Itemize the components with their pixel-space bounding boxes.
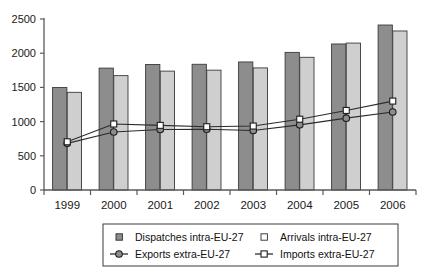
line-marker-square	[204, 124, 210, 130]
x-axis-category-label: 2002	[194, 199, 220, 211]
y-axis-tick-label: 2500	[12, 13, 36, 25]
line-marker-square	[157, 122, 163, 128]
legend-entry-label: Imports extra-EU-27	[280, 248, 375, 260]
line-marker-square	[390, 98, 396, 104]
line-marker-circle	[389, 109, 396, 116]
chart-legend: Dispatches intra-EU-27Arrivals intra-EU-…	[103, 224, 398, 266]
line-marker-square	[64, 139, 70, 145]
y-axis-tick-label: 1000	[12, 116, 36, 128]
legend-swatch-dispatches	[116, 234, 122, 240]
grouped-bar-line-chart: 05001000150020002500 1999200020012002200…	[0, 0, 436, 272]
legend-swatch-arrivals	[261, 234, 267, 240]
x-axis-category-label: 2000	[101, 199, 127, 211]
legend-entry-label: Exports extra-EU-27	[135, 248, 230, 260]
x-axis-category-label: 2004	[287, 199, 313, 211]
legend-marker-square-imports	[261, 251, 267, 257]
chart-container: 05001000150020002500 1999200020012002200…	[0, 0, 436, 272]
x-axis-category-label: 2003	[240, 199, 266, 211]
legend-marker-circle-exports	[116, 251, 123, 258]
y-axis-tick-label: 1500	[12, 81, 36, 93]
x-axis-category-label: 2005	[333, 199, 359, 211]
line-marker-square	[343, 107, 349, 113]
line-marker-square	[297, 116, 303, 122]
x-axis-category-label: 1999	[54, 199, 80, 211]
legend-entry[interactable]: Dispatches intra-EU-27	[116, 231, 244, 243]
line-marker-square	[250, 123, 256, 129]
y-axis-tick-label: 0	[30, 184, 36, 196]
x-axis-category-label: 2001	[147, 199, 173, 211]
legend-entry-label: Arrivals intra-EU-27	[280, 231, 372, 243]
bar	[378, 25, 392, 190]
legend-entry-label: Dispatches intra-EU-27	[135, 231, 244, 243]
line-marker-circle	[343, 115, 350, 122]
line-marker-circle	[110, 129, 117, 136]
x-axis-category-label: 2006	[380, 199, 406, 211]
y-axis-tick-label: 500	[18, 150, 36, 162]
y-axis-tick-label: 2000	[12, 47, 36, 59]
line-marker-square	[111, 121, 117, 127]
